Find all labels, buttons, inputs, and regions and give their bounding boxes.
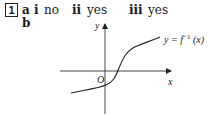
inverse-function-graph [0, 0, 216, 115]
x-axis-label: x [168, 75, 172, 89]
curve-label-suffix: (x) [190, 34, 204, 45]
y-axis-label: y [95, 19, 99, 33]
inverse-function-curve [71, 37, 160, 93]
origin-label: O [97, 73, 104, 87]
curve-label: y = f−1 (x) [164, 30, 204, 47]
curve-label-prefix: y = f [164, 34, 183, 45]
